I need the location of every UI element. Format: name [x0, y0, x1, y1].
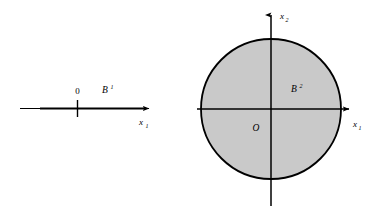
set-label-1d: B 1: [102, 84, 113, 96]
origin-label-1d: 0: [75, 86, 80, 96]
x2-axis-label-2d: x 2: [279, 11, 289, 23]
set-label-2d-superscript: 2: [300, 83, 303, 89]
panel-two-dimensional-ball: x 2 B 2 O x 1: [197, 11, 362, 206]
figure-canvas: 0 B 1 x 1 x 2: [0, 0, 379, 214]
set-label-2d-base: B: [291, 84, 297, 94]
x2-axis-label-2d-base: x: [279, 11, 284, 21]
x1-axis-label-2d-subscript: 1: [359, 125, 362, 131]
x1-axis-label-2d: x 1: [352, 119, 362, 131]
panel-one-dimensional-ball: 0 B 1 x 1: [20, 84, 149, 130]
x1-axis-label-2d-base: x: [352, 119, 357, 129]
origin-label-2d: O: [253, 123, 260, 133]
x1-axis-label-1d-base: x: [138, 117, 143, 127]
figure-root: 0 B 1 x 1 x 2: [0, 0, 379, 214]
set-label-1d-superscript: 1: [111, 84, 114, 90]
x1-axis-label-1d-subscript: 1: [146, 123, 149, 129]
x2-axis-label-2d-subscript: 2: [286, 17, 289, 23]
set-label-1d-base: B: [102, 85, 108, 95]
x1-axis-label-1d: x 1: [138, 117, 149, 129]
